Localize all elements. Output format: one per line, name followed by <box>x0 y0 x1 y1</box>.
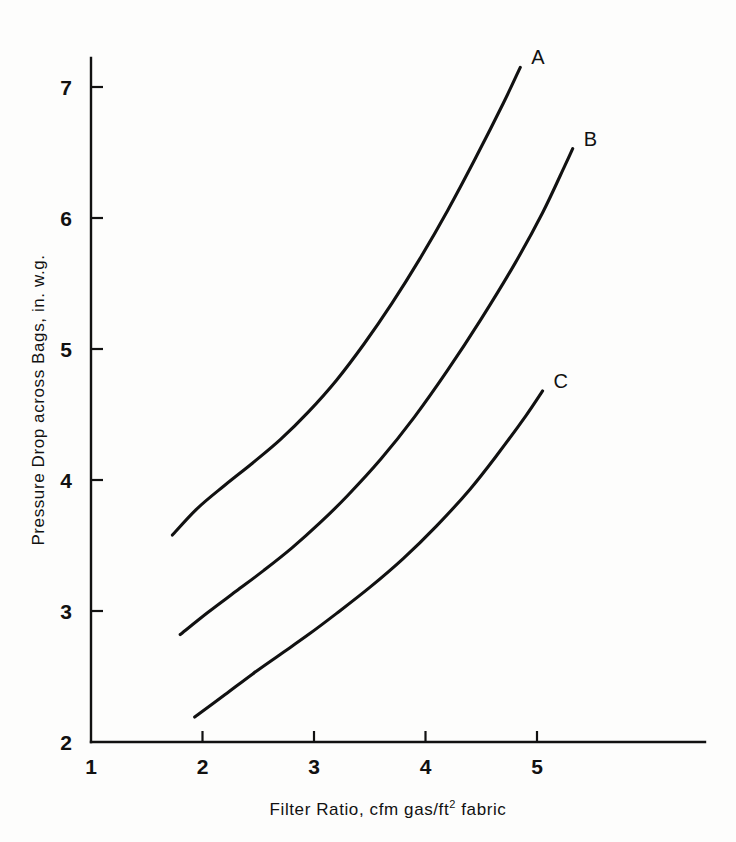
x-tick-label-1: 1 <box>85 755 97 778</box>
x-tick-label-5: 5 <box>531 755 543 778</box>
curve-label-a: A <box>531 46 545 68</box>
axes <box>91 58 705 742</box>
y-axis-ticks <box>91 87 103 611</box>
x-tick-label-2: 2 <box>197 755 209 778</box>
y-axis-title-text: Pressure Drop across Bags, in. w.g. <box>29 254 48 545</box>
y-tick-label-5: 5 <box>60 338 72 361</box>
x-tick-label-3: 3 <box>308 755 320 778</box>
y-tick-label-7: 7 <box>60 76 72 99</box>
y-tick-label-6: 6 <box>60 207 72 230</box>
curve-a <box>172 67 520 535</box>
line-chart: 23456712345 ABC Filter Ratio, cfm gas/ft… <box>0 0 736 842</box>
series-end-labels: ABC <box>531 46 597 392</box>
y-tick-label-3: 3 <box>60 600 72 623</box>
x-axis-title-superscript: 2 <box>449 798 456 810</box>
x-axis-ticks <box>203 731 538 742</box>
curve-b <box>180 149 572 635</box>
y-tick-label-4: 4 <box>60 469 72 492</box>
data-series-group <box>172 67 572 717</box>
y-axis-title: Pressure Drop across Bags, in. w.g. <box>29 254 48 545</box>
curve-label-b: B <box>584 128 597 150</box>
curve-c <box>195 391 543 717</box>
y-tick-label-2: 2 <box>60 731 72 754</box>
svg-text:Filter Ratio, cfm gas/ft2 f: Filter Ratio, cfm gas/ft2 fabric <box>270 798 507 819</box>
curve-label-c: C <box>554 370 568 392</box>
x-tick-label-4: 4 <box>420 755 432 778</box>
tick-labels: 23456712345 <box>60 76 543 778</box>
x-axis-title-main: Filter Ratio, cfm gas/ft <box>270 800 450 819</box>
x-axis-title-tail: fabric <box>456 800 507 819</box>
chart-figure: 23456712345 ABC Filter Ratio, cfm gas/ft… <box>0 0 736 842</box>
x-axis-title: Filter Ratio, cfm gas/ft2 fabric <box>270 798 507 819</box>
